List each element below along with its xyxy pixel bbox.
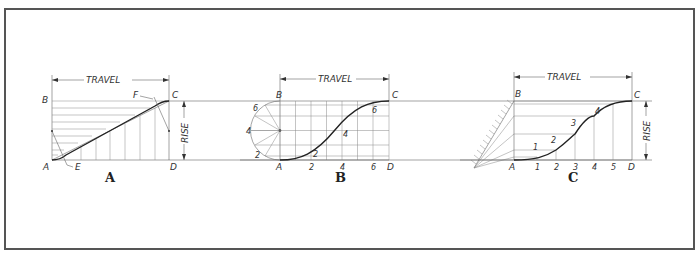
point-c-label-a: C: [172, 90, 179, 100]
curve-point-2: 2: [313, 150, 318, 159]
base-tick-1: 1: [535, 163, 540, 172]
travel-dimension-b: TRAVEL: [280, 74, 389, 101]
caption-c: C: [568, 170, 578, 185]
curve-point-1: 1: [533, 143, 538, 152]
curve-point-2: 2: [551, 136, 556, 145]
diagram-c: TRAVEL: [460, 72, 652, 185]
circle-division-6: 6: [253, 104, 258, 113]
point-d-label-b: D: [387, 162, 394, 172]
circle-division-4: 4: [246, 127, 251, 136]
point-c-label-c: C: [634, 90, 641, 100]
base-tick-2: 2: [309, 163, 314, 172]
circle-division-2: 2: [255, 151, 260, 160]
scale-hatches: [471, 100, 512, 164]
rise-label-a: RISE: [180, 122, 190, 143]
grid-b: [251, 101, 389, 160]
figure-canvas: TRAVEL: [0, 0, 699, 259]
guide-lines: [169, 101, 632, 160]
point-b-label-c: B: [515, 89, 521, 99]
point-d-label-c: D: [628, 162, 635, 172]
diagram-b: TRAVEL: [240, 74, 399, 185]
point-b-label-a: B: [42, 95, 48, 105]
point-b-label-b: B: [276, 90, 282, 100]
caption-a: A: [104, 170, 116, 185]
rise-label-c: RISE: [642, 120, 652, 141]
travel-label-b: TRAVEL: [318, 74, 352, 84]
travel-label-a: TRAVEL: [86, 75, 120, 85]
rise-dimension-c: RISE: [632, 101, 652, 160]
curve-point-6: 6: [372, 106, 377, 115]
displacement-curve-c: [514, 101, 632, 160]
point-d-label-a: D: [170, 162, 177, 172]
curve-point-4: 4: [343, 130, 348, 139]
base-tick-4: 4: [592, 163, 597, 172]
base-tick-6: 6: [371, 163, 376, 172]
travel-dimension-c: TRAVEL: [514, 72, 632, 101]
point-a-label-b: A: [275, 162, 282, 172]
grid-c: [514, 101, 632, 160]
travel-dimension-a: TRAVEL: [52, 75, 169, 101]
base-tick-2: 2: [554, 163, 559, 172]
point-e-label: E: [75, 162, 81, 172]
point-c-label-b: C: [392, 90, 399, 100]
point-a-label-a: A: [42, 162, 49, 172]
point-f-label: F: [133, 90, 139, 100]
inclined-scale-line: [474, 101, 514, 168]
caption-b: B: [335, 170, 346, 185]
figure-frame: [5, 9, 694, 249]
base-tick-5: 5: [611, 163, 616, 172]
diagram-a: TRAVEL: [42, 75, 190, 185]
rise-dimension-a: RISE: [180, 101, 190, 160]
point-a-label-c: A: [508, 162, 515, 172]
travel-label-c: TRAVEL: [547, 72, 581, 82]
curve-point-4: 4: [595, 107, 600, 116]
curve-point-3: 3: [571, 119, 576, 128]
